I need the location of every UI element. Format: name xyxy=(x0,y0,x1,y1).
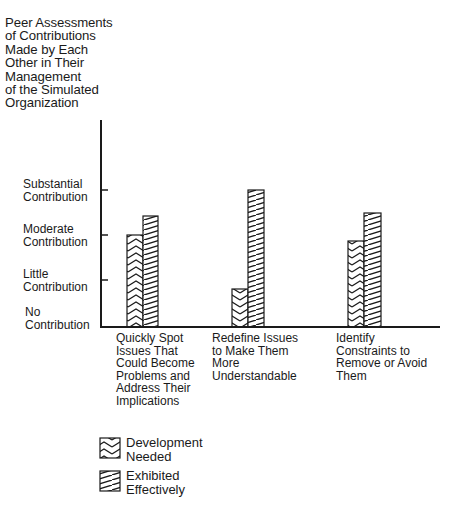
legend-swatches xyxy=(100,438,120,491)
chart-plot xyxy=(0,0,449,515)
bar-development-needed xyxy=(127,235,143,327)
bar-exhibited-effectively xyxy=(364,213,381,327)
bar-exhibited-effectively xyxy=(143,216,158,327)
category-label-redefine-issues: Redefine Issues to Make Them More Unders… xyxy=(212,332,298,382)
y-axis xyxy=(101,120,108,327)
category-label-quickly-spot: Quickly Spot Issues That Could Become Pr… xyxy=(116,332,195,408)
bar-group-redefine-issues xyxy=(232,190,264,327)
legend-label-exhibited-effectively: Exhibited Effectively xyxy=(126,469,185,496)
category-label-identify-constraints: Identify Constraints to Remove or Avoid … xyxy=(336,332,427,382)
bar-exhibited-effectively xyxy=(248,190,264,327)
legend-swatch-exhibited-effectively xyxy=(100,471,120,491)
legend-label-development-needed: Development Needed xyxy=(126,436,203,463)
bar-development-needed xyxy=(348,241,364,327)
bar-group-identify-constraints xyxy=(348,213,381,327)
legend-swatch-development-needed xyxy=(100,438,120,458)
bar-group-quickly-spot xyxy=(127,216,158,327)
bar-development-needed xyxy=(232,289,248,327)
